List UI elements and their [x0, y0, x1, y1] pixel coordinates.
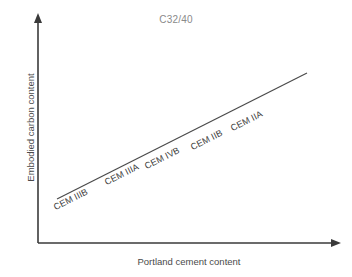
arrow-right-icon	[331, 239, 341, 247]
x-axis-title: Portland cement content	[38, 256, 340, 267]
trend-line-series	[57, 73, 307, 199]
arrow-up-icon	[34, 13, 42, 23]
chart-figure: C32/40 CEM IIIB CEM IIIA CEM IVB CEM IIB…	[0, 0, 352, 277]
y-axis-title: Embodied carbon content	[25, 43, 36, 213]
chart-plot-area	[0, 0, 352, 277]
